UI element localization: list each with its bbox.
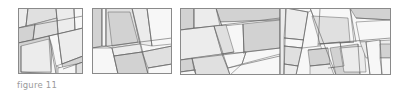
- pattern-shape: [180, 8, 194, 30]
- pattern-shape: [180, 58, 194, 72]
- pattern-graphic-2: [92, 8, 172, 74]
- pattern-graphic-3: [180, 8, 391, 75]
- pattern-shape: [74, 8, 83, 30]
- figure-caption: figure 11: [17, 80, 57, 90]
- figure-panel-1: [18, 8, 83, 74]
- pattern-shape: [92, 8, 102, 48]
- pattern-graphic-1: [18, 8, 83, 74]
- pattern-shape: [216, 8, 280, 22]
- pattern-shape: [56, 8, 75, 34]
- figure-panel-3: [180, 8, 391, 75]
- figure: figure 11: [0, 0, 406, 95]
- pattern-shape: [102, 8, 106, 46]
- pattern-shape: [194, 8, 220, 28]
- pattern-shape: [340, 46, 366, 72]
- pattern-shape: [380, 44, 391, 58]
- figure-panel-2: [92, 8, 172, 74]
- pattern-shape: [243, 20, 280, 52]
